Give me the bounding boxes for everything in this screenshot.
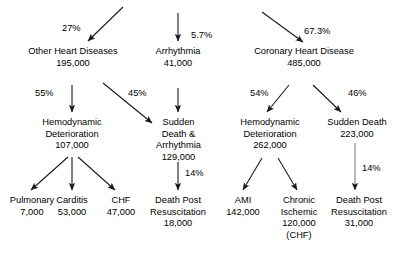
node-carditis-value: 53,000 xyxy=(44,207,100,219)
node-chf: CHF 47,000 xyxy=(96,195,146,218)
node-sudden-death: Sudden Death 223,000 xyxy=(315,117,399,140)
node-chf-label: CHF xyxy=(96,195,146,207)
node-death-post-resuscitation-center: Death Post Resuscitation 18,000 xyxy=(142,195,214,230)
node-carditis: Carditis 53,000 xyxy=(44,195,100,218)
node-other-heart-diseases: Other Heart Diseases 195,000 xyxy=(8,46,138,69)
node-death-post-right-value: 31,000 xyxy=(322,218,396,230)
edge-root-to-coronary-heart-disease xyxy=(262,12,303,42)
node-sudden-death-value: 223,000 xyxy=(315,129,399,141)
flowchart-diagram: 27% 5.7% 67.3% 55% 45% 14% 54% 46% 14% O… xyxy=(0,0,409,260)
edge-label-coronary-to-hemodynamic: 54% xyxy=(250,88,269,99)
node-hemodynamic-left-line1: Hemodynamic xyxy=(22,117,122,129)
node-chronic-ischemic-value: 120,000 xyxy=(274,218,324,230)
edge-label-coronary-to-sudden-death: 46% xyxy=(348,88,367,99)
edge-hemodynamic-right-to-ami xyxy=(243,158,262,190)
node-sudden-death-arrhythmia-line1: Sudden xyxy=(146,117,211,129)
node-death-post-right-line1: Death Post xyxy=(322,195,396,207)
node-sudden-death-arrhythmia: Sudden Death & Arrhythmia 129,000 xyxy=(146,117,211,163)
edge-coronary-to-hemodynamic-right xyxy=(267,85,289,112)
edge-label-root-to-coronary: 67.3% xyxy=(304,26,330,37)
node-death-post-center-line1: Death Post xyxy=(142,195,214,207)
node-death-post-center-line2: Resuscitation xyxy=(142,207,214,219)
node-ami: AMI 142,000 xyxy=(215,195,271,218)
node-hemodynamic-deterioration-right: Hemodynamic Deterioration 262,000 xyxy=(220,117,320,152)
node-sudden-death-label: Sudden Death xyxy=(315,117,399,129)
node-chronic-ischemic-line1: Chronic xyxy=(274,195,324,207)
node-carditis-label: Carditis xyxy=(44,195,100,207)
edge-label-sudden-to-death-post: 14% xyxy=(185,168,204,179)
node-sudden-death-arrhythmia-line3: Arrhythmia xyxy=(146,140,211,152)
node-coronary-heart-disease-value: 485,000 xyxy=(232,58,376,70)
node-chronic-ischemic: Chronic Ischemic 120,000 (CHF) xyxy=(274,195,324,241)
node-ami-value: 142,000 xyxy=(215,207,271,219)
edge-coronary-to-sudden-death xyxy=(313,85,341,112)
node-coronary-heart-disease-label: Coronary Heart Disease xyxy=(232,46,376,58)
node-chronic-ischemic-line2: Ischemic xyxy=(274,207,324,219)
node-other-heart-diseases-label: Other Heart Diseases xyxy=(8,46,138,58)
node-hemodynamic-right-line1: Hemodynamic xyxy=(220,117,320,129)
node-sudden-death-arrhythmia-line2: Death & xyxy=(146,129,211,141)
edge-label-other-to-hemodynamic: 55% xyxy=(35,88,54,99)
node-arrhythmia-label: Arrhythmia xyxy=(143,46,213,58)
node-death-post-center-value: 18,000 xyxy=(142,218,214,230)
node-arrhythmia-value: 41,000 xyxy=(143,58,213,70)
edge-label-root-to-arrhythmia: 5.7% xyxy=(191,30,212,41)
node-death-post-right-line2: Resuscitation xyxy=(322,207,396,219)
node-hemodynamic-left-line2: Deterioration xyxy=(22,129,122,141)
node-ami-label: AMI xyxy=(215,195,271,207)
edge-label-root-to-other: 27% xyxy=(62,23,81,34)
node-death-post-resuscitation-right: Death Post Resuscitation 31,000 xyxy=(322,195,396,230)
node-other-heart-diseases-value: 195,000 xyxy=(8,58,138,70)
node-coronary-heart-disease: Coronary Heart Disease 485,000 xyxy=(232,46,376,69)
node-arrhythmia: Arrhythmia 41,000 xyxy=(143,46,213,69)
node-chronic-ischemic-note: (CHF) xyxy=(274,230,324,242)
edge-hemodynamic-right-to-chronic-ischemic xyxy=(278,158,297,190)
node-hemodynamic-right-value: 262,000 xyxy=(220,140,320,152)
node-sudden-death-arrhythmia-value: 129,000 xyxy=(146,152,211,164)
node-hemodynamic-left-value: 107,000 xyxy=(22,140,122,152)
node-chf-value: 47,000 xyxy=(96,207,146,219)
edge-hemodynamic-left-to-chf xyxy=(78,157,115,190)
node-hemodynamic-right-line2: Deterioration xyxy=(220,129,320,141)
edge-label-other-to-sudden-death: 45% xyxy=(128,88,147,99)
edge-hemodynamic-left-to-pulmonary xyxy=(31,157,68,190)
edge-label-sudden-death-to-death-post: 14% xyxy=(362,163,381,174)
edge-root-to-other-heart-diseases xyxy=(88,7,123,41)
node-hemodynamic-deterioration-left: Hemodynamic Deterioration 107,000 xyxy=(22,117,122,152)
